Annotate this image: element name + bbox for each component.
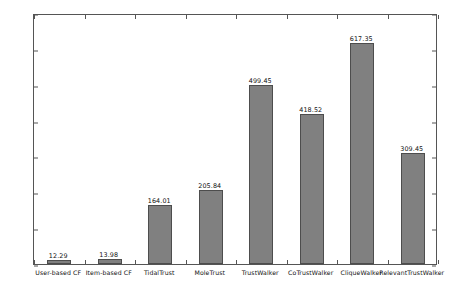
x-tick-label: User-based CF bbox=[35, 269, 81, 276]
x-tick-label: TidalTrust bbox=[144, 269, 175, 276]
x-tick-mark-top bbox=[287, 15, 288, 19]
x-tick-mark bbox=[236, 260, 237, 264]
x-tick-mark bbox=[337, 260, 338, 264]
bar-value-label: 499.45 bbox=[249, 77, 272, 85]
x-tick-mark-top bbox=[337, 15, 338, 19]
y-tick-mark-right bbox=[432, 266, 436, 267]
x-tick-label: Item-based CF bbox=[86, 269, 132, 276]
y-tick-mark bbox=[34, 230, 38, 231]
bar bbox=[148, 205, 172, 264]
x-tick-mark-top bbox=[85, 15, 86, 19]
y-tick-mark bbox=[34, 194, 38, 195]
bar bbox=[47, 260, 71, 264]
bar bbox=[249, 85, 273, 264]
y-tick-mark-right bbox=[432, 122, 436, 123]
x-tick-mark-top bbox=[186, 15, 187, 19]
bar-value-label: 13.98 bbox=[99, 251, 118, 259]
x-tick-mark-top bbox=[135, 15, 136, 19]
y-tick-mark bbox=[34, 266, 38, 267]
y-tick-mark bbox=[34, 50, 38, 51]
bar-value-label: 418.52 bbox=[299, 106, 322, 114]
y-tick-mark bbox=[34, 122, 38, 123]
y-tick-mark-right bbox=[432, 50, 436, 51]
y-tick-mark-right bbox=[432, 15, 436, 16]
bar bbox=[401, 153, 425, 264]
x-tick-label: CoTrustWalker bbox=[288, 269, 333, 276]
x-tick-label: CliqueWalker bbox=[340, 269, 382, 276]
y-tick-mark bbox=[34, 158, 38, 159]
y-tick-mark-right bbox=[432, 230, 436, 231]
y-tick-mark bbox=[34, 86, 38, 87]
bar bbox=[98, 259, 122, 264]
bar-value-label: 164.01 bbox=[148, 197, 171, 205]
x-tick-mark-top bbox=[388, 15, 389, 19]
bar-value-label: 309.45 bbox=[400, 145, 423, 153]
x-tick-mark bbox=[438, 260, 439, 264]
x-tick-mark-top bbox=[438, 15, 439, 19]
y-tick-mark-right bbox=[432, 194, 436, 195]
bar bbox=[300, 114, 324, 264]
x-tick-mark-top bbox=[34, 15, 35, 19]
x-tick-mark bbox=[135, 260, 136, 264]
x-tick-mark bbox=[85, 260, 86, 264]
bar bbox=[199, 190, 223, 264]
x-tick-label: MoleTrust bbox=[194, 269, 225, 276]
x-tick-label: RelevantTrustWalker bbox=[379, 269, 444, 276]
bar-value-label: 205.84 bbox=[198, 182, 221, 190]
x-tick-mark bbox=[388, 260, 389, 264]
bar-chart: 0100200300400500600700 User-based CFItem… bbox=[0, 0, 451, 293]
x-tick-mark-top bbox=[236, 15, 237, 19]
bar-value-label: 617.35 bbox=[350, 35, 373, 43]
y-tick-mark-right bbox=[432, 158, 436, 159]
bar bbox=[350, 43, 374, 264]
x-tick-mark bbox=[186, 260, 187, 264]
plot-area bbox=[33, 14, 437, 265]
x-tick-mark bbox=[287, 260, 288, 264]
x-tick-label: TrustWalker bbox=[242, 269, 279, 276]
x-tick-mark bbox=[34, 260, 35, 264]
y-tick-mark-right bbox=[432, 86, 436, 87]
bar-value-label: 12.29 bbox=[49, 252, 68, 260]
